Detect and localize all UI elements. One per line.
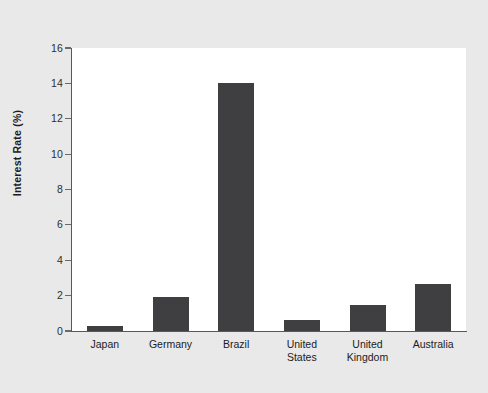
y-axis-tick-label: 12 xyxy=(39,112,63,124)
y-axis-tick-mark xyxy=(65,189,71,190)
bar-chart-figure: Interest Rate (%) 0246810121416 JapanGer… xyxy=(0,5,488,393)
bar xyxy=(87,326,123,331)
y-axis-tick-mark xyxy=(65,118,71,119)
y-axis-tick-label: 16 xyxy=(39,42,63,54)
bars-layer xyxy=(72,48,466,331)
y-axis-tick-mark xyxy=(65,330,71,331)
y-axis-tick-mark xyxy=(65,260,71,261)
y-axis-tick-mark xyxy=(65,224,71,225)
y-axis-tick-mark xyxy=(65,47,71,48)
y-axis-tick-mark xyxy=(65,295,71,296)
y-axis-tick-label: 8 xyxy=(39,183,63,195)
y-axis-tick-mark xyxy=(65,83,71,84)
x-axis-tick-label: Australia xyxy=(388,338,478,351)
bar xyxy=(153,297,189,331)
y-axis-tick-mark xyxy=(65,154,71,155)
bar xyxy=(350,305,386,331)
bar xyxy=(284,320,320,331)
x-axis-line xyxy=(71,331,467,332)
y-axis-tick-label: 14 xyxy=(39,77,63,89)
y-axis-tick-label: 6 xyxy=(39,218,63,230)
y-axis-tick-label: 10 xyxy=(39,148,63,160)
bar xyxy=(415,284,451,331)
y-axis-tick-label: 4 xyxy=(39,254,63,266)
y-axis-tick-label: 2 xyxy=(39,289,63,301)
y-axis-tick-label: 0 xyxy=(39,325,63,337)
bar xyxy=(218,83,254,331)
